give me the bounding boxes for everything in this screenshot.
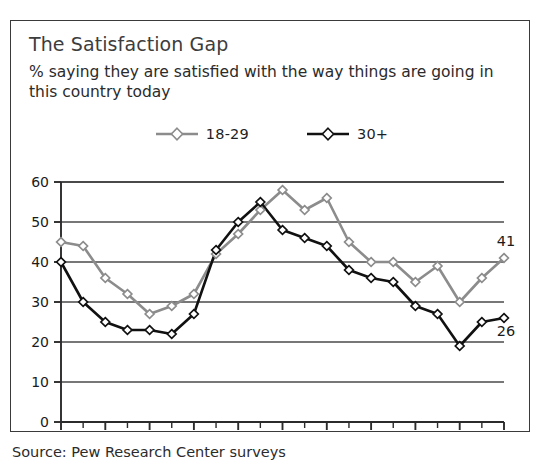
y-tick-label: 50 bbox=[31, 214, 49, 230]
data-label-41: 41 bbox=[497, 233, 515, 249]
data-point-marker[interactable] bbox=[145, 326, 154, 335]
legend-label-30-plus: 30+ bbox=[357, 126, 388, 142]
data-point-marker[interactable] bbox=[500, 314, 509, 323]
y-tick-label: 30 bbox=[31, 294, 49, 310]
y-tick-label: 40 bbox=[31, 254, 49, 270]
y-tick-label: 60 bbox=[31, 174, 49, 190]
data-point-marker[interactable] bbox=[300, 234, 309, 243]
data-label-26: 26 bbox=[497, 323, 515, 339]
chart-card: The Satisfaction Gap % saying they are s… bbox=[10, 20, 530, 432]
legend-item-30-plus[interactable]: 30+ bbox=[305, 126, 388, 142]
legend-item-18-29[interactable]: 18-29 bbox=[154, 126, 249, 142]
page-title: The Satisfaction Gap bbox=[29, 33, 228, 55]
chart-source: Source: Pew Research Center surveys bbox=[12, 444, 286, 460]
legend-label-18-29: 18-29 bbox=[206, 126, 249, 142]
y-tick-label: 20 bbox=[31, 334, 49, 350]
data-point-marker[interactable] bbox=[123, 326, 132, 335]
chart-legend: 18-29 30+ bbox=[11, 126, 531, 142]
legend-marker-30-plus-icon bbox=[305, 126, 351, 142]
data-point-marker[interactable] bbox=[367, 274, 376, 283]
chart-subtitle: % saying they are satisfied with the way… bbox=[29, 62, 507, 102]
y-tick-label: 0 bbox=[40, 414, 49, 430]
line-chart-svg: 0102030405060199019921994199619982000200… bbox=[11, 149, 531, 433]
chart-plot-area: 0102030405060199019921994199619982000200… bbox=[11, 149, 531, 433]
figure-root: The Satisfaction Gap % saying they are s… bbox=[0, 0, 544, 466]
y-tick-label: 10 bbox=[31, 374, 49, 390]
legend-marker-18-29-icon bbox=[154, 126, 200, 142]
data-point-marker[interactable] bbox=[57, 238, 66, 247]
